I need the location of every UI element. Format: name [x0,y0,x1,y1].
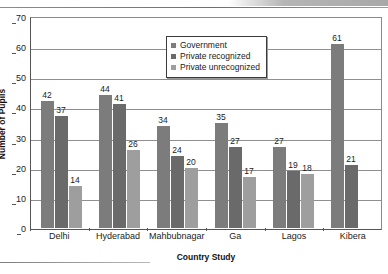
y-tick-label: 60 [16,43,26,53]
legend-swatch-icon [171,43,176,48]
bar-slot [359,19,372,228]
bar-slot: 19 [287,19,300,228]
chart-legend: GovernmentPrivate recognizedPrivate unre… [166,36,267,78]
bar-slot: 18 [301,19,314,228]
y-tick-mark [12,144,16,145]
bar-slot: 21 [345,19,358,228]
x-tick-label: Ga [206,231,265,241]
legend-label: Government [180,40,227,51]
bar-slot: 42 [41,19,54,228]
y-tick-mark [12,83,16,84]
y-tick-mark [17,234,21,235]
x-axis-label: Country Study [30,252,382,262]
bar-value-label: 14 [70,175,79,185]
y-tick-mark [12,204,16,205]
bar-value-label: 35 [216,112,225,122]
legend-item[interactable]: Private recognized [171,51,260,62]
x-tick-mark [30,228,31,231]
legend-label: Private recognized [180,51,250,62]
bar-value-label: 37 [56,105,65,115]
bar-slot: 44 [99,19,112,228]
bar-slot: 14 [69,19,82,228]
y-tick-label: 70 [16,13,26,23]
bar[interactable]: 27 [229,147,242,228]
y-tick-label: 50 [16,73,26,83]
y-tick-mark [12,23,16,24]
bar-value-label: 26 [128,139,137,149]
y-tick-label: 30 [16,134,26,144]
legend-item[interactable]: Private unrecognized [171,62,260,73]
bar[interactable]: 26 [127,150,140,228]
bar[interactable]: 44 [99,95,112,228]
x-tick-mark [265,228,266,231]
legend-label: Private unrecognized [180,62,260,73]
x-tick-label: Mahbubnagar [147,231,206,241]
legend-item[interactable]: Government [171,40,260,51]
bar-value-label: 19 [288,160,297,170]
x-tick-label: Lagos [265,231,324,241]
bar[interactable]: 61 [331,44,344,228]
page-bottom-divider [0,262,150,263]
page-top-divider [0,7,388,8]
y-axis-label: Number of Pupils [0,88,7,158]
bar-slot: 61 [331,19,344,228]
bar[interactable]: 17 [243,177,256,228]
bar-value-label: 27 [230,136,239,146]
legend-swatch-icon [171,65,176,70]
x-tick-mark [89,228,90,231]
x-tick-label: Kibera [323,231,382,241]
bar-slot: 27 [273,19,286,228]
x-axis-ticks: DelhiHyderabadMahbubnagarGaLagosKibera [30,231,382,241]
x-tick-label: Hyderabad [89,231,148,241]
bar-value-label: 44 [100,84,109,94]
bar-group: 6121 [322,19,380,228]
legend-swatch-icon [171,54,176,59]
bar-value-label: 24 [172,145,181,155]
bar[interactable]: 24 [171,156,184,228]
bar-slot: 37 [55,19,68,228]
bar-value-label: 21 [346,154,355,164]
bar-group: 271918 [264,19,322,228]
bar-value-label: 27 [274,136,283,146]
x-tick-mark [147,228,148,231]
y-tick-label: 10 [16,194,26,204]
bar-value-label: 41 [114,93,123,103]
bar[interactable]: 21 [345,165,358,228]
y-tick-label: 0 [21,224,26,234]
bar[interactable]: 41 [113,104,126,228]
page-header-artifact [228,0,388,6]
bar[interactable]: 34 [157,126,170,228]
x-tick-label: Delhi [30,231,89,241]
bar[interactable]: 20 [185,168,198,228]
y-tick-mark [12,113,16,114]
bar[interactable]: 14 [69,186,82,228]
bar[interactable]: 19 [287,171,300,228]
bar-value-label: 20 [186,157,195,167]
bar-value-label: 18 [302,163,311,173]
x-tick-mark [206,228,207,231]
x-tick-mark [323,228,324,231]
chart-page: 4237144441263424203527172719186121 01020… [0,0,388,274]
bar-value-label: 61 [332,33,341,43]
bar-value-label: 17 [244,166,253,176]
y-tick-mark [12,174,16,175]
y-tick-mark [12,53,16,54]
bar[interactable]: 18 [301,174,314,228]
bar-group: 423714 [32,19,90,228]
bar-value-label: 34 [158,115,167,125]
bar[interactable]: 27 [273,147,286,228]
bar-value-label: 42 [42,90,51,100]
y-tick-label: 40 [16,103,26,113]
bar[interactable]: 42 [41,101,54,228]
bar-group: 444126 [90,19,148,228]
bar-slot: 41 [113,19,126,228]
bar[interactable]: 35 [215,123,228,229]
bar[interactable]: 37 [55,116,68,228]
bar-slot: 26 [127,19,140,228]
y-tick-label: 20 [16,164,26,174]
